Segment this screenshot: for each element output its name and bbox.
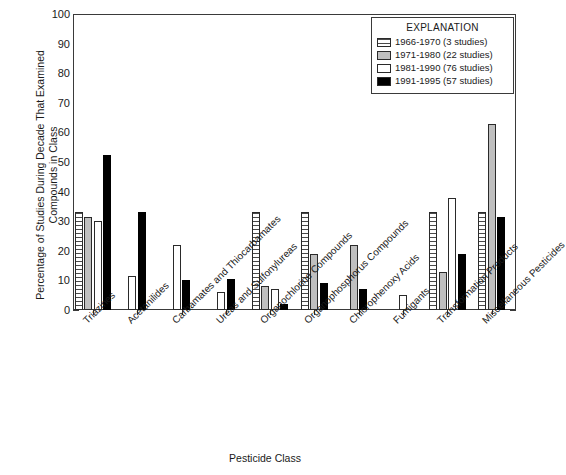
y-tick-major — [73, 310, 79, 311]
legend-entry: 1991-1995 (57 studies) — [377, 75, 508, 87]
bar — [128, 276, 136, 310]
bar — [75, 212, 83, 310]
bar — [252, 212, 260, 310]
bar — [488, 124, 496, 310]
legend-entry: 1966-1970 (3 studies) — [377, 36, 508, 48]
bar — [138, 212, 146, 310]
bar — [429, 212, 437, 310]
y-tick-label: 10 — [30, 275, 70, 286]
y-tick-label: 50 — [30, 157, 70, 168]
y-tick-label: 70 — [30, 98, 70, 109]
y-axis-tick-labels: 0102030405060708090100 — [30, 0, 70, 475]
bar — [173, 245, 181, 310]
legend-swatch-icon — [377, 38, 391, 47]
y-tick-label: 90 — [30, 39, 70, 50]
y-tick-label: 40 — [30, 187, 70, 198]
legend-swatch-icon — [377, 51, 391, 60]
legend-entries: 1966-1970 (3 studies)1971-1980 (22 studi… — [377, 36, 508, 87]
y-tick-label: 80 — [30, 68, 70, 79]
y-tick-label: 0 — [30, 305, 70, 316]
bar — [448, 198, 456, 310]
legend-label: 1981-1990 (76 studies) — [395, 63, 493, 73]
bar — [439, 272, 447, 310]
legend-swatch-icon — [377, 64, 391, 73]
legend-label: 1966-1970 (3 studies) — [395, 37, 487, 47]
legend-entry: 1981-1990 (76 studies) — [377, 62, 508, 74]
legend-entry: 1971-1980 (22 studies) — [377, 49, 508, 61]
bar — [301, 212, 309, 310]
bar — [103, 155, 111, 310]
x-axis-title: Pesticide Class — [0, 452, 530, 464]
y-tick-label: 60 — [30, 127, 70, 138]
bar — [478, 212, 486, 310]
bar — [84, 217, 92, 310]
legend: EXPLANATION 1966-1970 (3 studies)1971-19… — [371, 17, 514, 94]
y-tick-label: 100 — [30, 9, 70, 20]
y-tick-label: 20 — [30, 246, 70, 257]
legend-swatch-icon — [377, 77, 391, 86]
y-tick-label: 30 — [30, 216, 70, 227]
legend-title: EXPLANATION — [377, 22, 508, 33]
legend-label: 1991-1995 (57 studies) — [395, 76, 493, 86]
y-tick-major-right — [510, 310, 516, 311]
legend-label: 1971-1980 (22 studies) — [395, 50, 493, 60]
